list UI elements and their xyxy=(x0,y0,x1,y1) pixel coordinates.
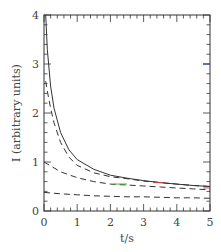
x-tick-label: 4 xyxy=(173,216,180,229)
y-tick-label: 1 xyxy=(32,156,39,169)
series-total xyxy=(46,15,210,187)
y-tick-label: 2 xyxy=(32,107,39,120)
data-series xyxy=(44,15,210,198)
x-tick-label: 2 xyxy=(107,216,114,229)
series-component-2 xyxy=(44,162,210,190)
y-tick-label: 3 xyxy=(32,58,39,71)
y-axis-label: I (arbitrary units) xyxy=(10,64,23,162)
y-tick-label: 0 xyxy=(32,205,39,218)
axis-ticks xyxy=(44,15,210,211)
series-component-1 xyxy=(46,81,210,186)
series-component-3 xyxy=(44,192,210,198)
plot-frame xyxy=(44,15,210,211)
x-tick-label: 3 xyxy=(140,216,147,229)
annotations xyxy=(114,64,210,188)
x-tick-label: 5 xyxy=(207,216,214,229)
tick-labels: 01234501234 xyxy=(32,9,214,229)
y-tick-label: 4 xyxy=(32,9,39,22)
x-tick-label: 1 xyxy=(74,216,81,229)
x-tick-label: 0 xyxy=(41,216,48,229)
line-chart: 01234501234 t/s I (arbitrary units) xyxy=(0,0,221,252)
x-axis-label: t/s xyxy=(120,232,134,245)
